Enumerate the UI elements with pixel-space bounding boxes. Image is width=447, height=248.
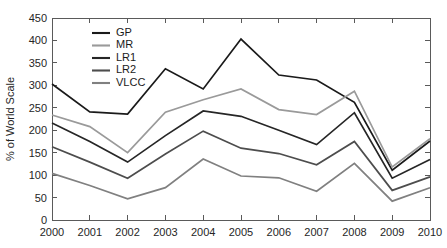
y-axis-tick-labels: 050100150200250300350400450 [29, 12, 47, 226]
legend-label-lr1: LR1 [116, 51, 136, 63]
x-tick-label: 2008 [342, 226, 366, 238]
x-tick-label: 2007 [304, 226, 328, 238]
x-tick-label: 2009 [380, 226, 404, 238]
x-tick-label: 2006 [267, 226, 291, 238]
plot-area-background [52, 18, 430, 220]
y-tick-label: 200 [29, 124, 47, 136]
x-tick-label: 2004 [191, 226, 215, 238]
x-tick-label: 2001 [78, 226, 102, 238]
y-tick-label: 300 [29, 79, 47, 91]
plot-background [52, 18, 430, 220]
x-tick-label: 2000 [40, 226, 64, 238]
x-tick-label: 2005 [229, 226, 253, 238]
line-chart-figure: 050100150200250300350400450 200020012002… [0, 0, 447, 248]
x-tick-label: 2003 [153, 226, 177, 238]
chart-canvas: 050100150200250300350400450 200020012002… [0, 0, 447, 248]
y-tick-label: 150 [29, 147, 47, 159]
legend-label-mr: MR [116, 38, 133, 50]
y-tick-label: 100 [29, 169, 47, 181]
y-tick-label: 400 [29, 34, 47, 46]
y-tick-label: 250 [29, 102, 47, 114]
legend-label-lr2: LR2 [116, 63, 136, 75]
y-tick-label: 450 [29, 12, 47, 24]
legend-label-gp: GP [116, 26, 132, 38]
x-tick-label: 2002 [115, 226, 139, 238]
y-tick-label: 0 [41, 214, 47, 226]
x-axis-tick-labels: 2000200120022003200420052006200720082009… [40, 226, 442, 238]
y-tick-label: 350 [29, 57, 47, 69]
y-axis-title: % of World Scale [4, 77, 16, 161]
x-tick-label: 2010 [418, 226, 442, 238]
legend-label-vlcc: VLCC [116, 76, 145, 88]
y-tick-label: 50 [35, 192, 47, 204]
